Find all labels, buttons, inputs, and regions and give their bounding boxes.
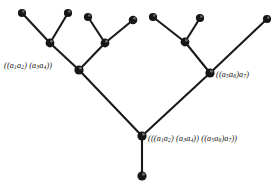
stem-terminal-node-dot <box>137 171 146 180</box>
leaf-node-a7-dot <box>263 15 271 23</box>
edge-a1-to-a1a2 <box>22 13 50 43</box>
internal-node-a1a2-highlight <box>50 40 53 43</box>
leaf-node-a1-highlight <box>22 10 24 12</box>
leaf-node-a5 <box>149 13 157 21</box>
internal-node-a3a4-dot <box>101 39 110 48</box>
label-left-subtree: ((a1a2) (a3a4)) <box>4 62 52 71</box>
internal-node-a5a6-highlight <box>185 39 188 42</box>
internal-node-right-highlight <box>210 70 213 73</box>
label-root-expression: (((a1a2) (a3a4)) ((a5a6)a7)) <box>148 135 237 144</box>
leaf-node-a1-dot <box>18 9 26 17</box>
leaf-node-a6-dot <box>196 14 204 22</box>
edge-right-to-root <box>142 73 210 136</box>
internal-node-left-highlight <box>79 67 82 70</box>
edge-a5a6-to-right <box>185 42 210 73</box>
tree-graphic <box>0 0 278 188</box>
edge-a4-to-a3a4 <box>105 20 133 43</box>
edge-a3a4-to-left <box>79 43 105 70</box>
leaf-node-a6 <box>196 14 204 22</box>
root-node <box>137 131 146 140</box>
leaf-node-a2-highlight <box>68 10 70 12</box>
internal-node-right-dot <box>205 68 214 77</box>
internal-node-a5a6-dot <box>181 38 190 47</box>
leaf-node-a4-dot <box>129 16 138 25</box>
internal-node-left-dot <box>74 65 83 74</box>
leaf-node-a3-dot <box>84 13 92 21</box>
edge-a5-to-a5a6 <box>153 17 185 42</box>
leaf-node-a5-highlight <box>153 14 155 16</box>
stem-terminal-node-highlight <box>142 173 145 176</box>
leaf-node-a5-dot <box>149 13 157 21</box>
tree-diagram-figure: ((a1a2) (a3a4)) ((a5a6)a7) (((a1a2) (a3a… <box>0 0 278 188</box>
leaf-node-a3-highlight <box>88 14 90 16</box>
internal-node-left <box>74 65 83 74</box>
root-node-highlight <box>142 133 145 136</box>
leaf-node-a4-highlight <box>133 17 136 20</box>
leaf-node-a7 <box>263 15 271 23</box>
edge-layer <box>22 13 267 176</box>
leaf-node-a3 <box>84 13 92 21</box>
leaf-node-a2 <box>64 9 72 17</box>
internal-node-a1a2 <box>46 39 55 48</box>
leaf-node-a6-highlight <box>200 15 202 17</box>
edge-a7-to-right <box>210 19 267 73</box>
leaf-node-a2-dot <box>64 9 72 17</box>
internal-node-a3a4-highlight <box>105 40 108 43</box>
leaf-node-a7-highlight <box>267 16 269 18</box>
edge-left-to-root <box>79 70 142 136</box>
stem-terminal-node <box>137 171 146 180</box>
edge-a1a2-to-left <box>50 43 79 70</box>
leaf-node-a1 <box>18 9 26 17</box>
edge-a2-to-a1a2 <box>50 13 68 43</box>
internal-node-a3a4 <box>101 39 110 48</box>
leaf-node-a4 <box>129 16 138 25</box>
edge-a3-to-a3a4 <box>88 17 105 43</box>
internal-node-a5a6 <box>181 38 190 47</box>
internal-node-a1a2-dot <box>46 39 55 48</box>
internal-node-right <box>205 68 214 77</box>
label-right-subtree: ((a5a6)a7) <box>216 71 249 80</box>
root-node-dot <box>137 131 146 140</box>
